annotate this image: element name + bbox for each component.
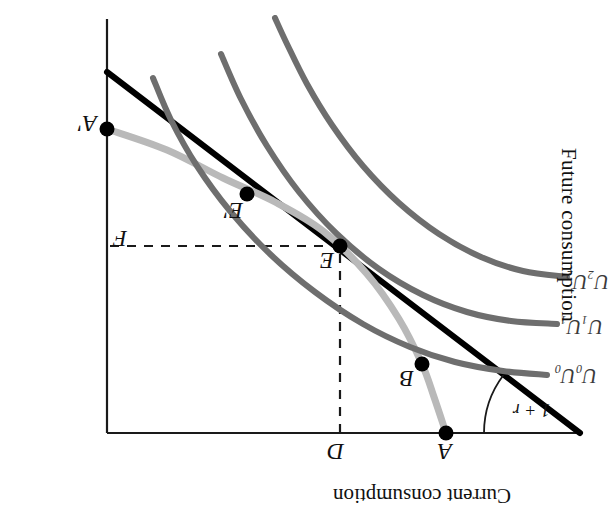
figure-svg (0, 0, 615, 514)
curve-u0u0 (153, 78, 547, 375)
guide-lines-group (107, 246, 340, 433)
curve-label-u0: U₀U₀ (554, 366, 597, 386)
point-label-f: F (113, 227, 127, 250)
interest-rate-label: 1 + r (513, 401, 550, 419)
rate-arc-group (484, 375, 503, 433)
point-label-b: B (400, 367, 414, 390)
point-label-ap: A' (78, 112, 97, 135)
curve-u2u2 (275, 18, 567, 277)
diagram-canvas: ABEE'A'DFU₀U₀U₁U₁U₂U₂1 + r Current consu… (0, 0, 615, 514)
point-label-a: A (438, 440, 452, 463)
curves-group (107, 18, 580, 433)
axis-label-current-consumption: Current consumption (333, 485, 511, 506)
point-label-d: D (327, 440, 344, 463)
point-label-e: E (320, 249, 334, 272)
rotated-figure-group: ABEE'A'DFU₀U₀U₁U₁U₂U₂1 + r Current consu… (0, 0, 615, 514)
point-dot-e (333, 239, 348, 254)
axis-label-future-consumption: Future consumption (556, 148, 581, 322)
rate-arc (484, 375, 503, 433)
point-label-ep: E' (224, 199, 243, 222)
point-dot-ap (100, 122, 115, 137)
point-dot-b (415, 357, 430, 372)
